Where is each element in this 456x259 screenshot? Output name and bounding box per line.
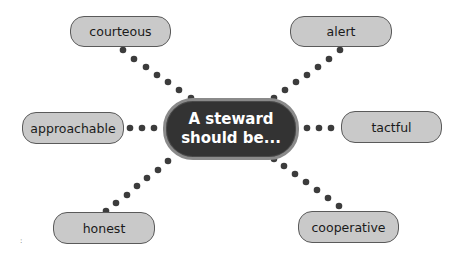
node-honest: honest	[53, 212, 155, 244]
node-alert: alert	[290, 16, 392, 47]
node-cooperative: cooperative	[298, 211, 399, 243]
node-label: courteous	[89, 24, 151, 39]
central-title-line1: A steward	[188, 110, 273, 129]
node-label: alert	[327, 24, 356, 39]
node-label: approachable	[30, 121, 115, 136]
node-tactful: tactful	[341, 111, 442, 143]
node-label: cooperative	[311, 220, 385, 235]
footer-mark: :	[20, 237, 22, 245]
node-label: tactful	[371, 120, 411, 135]
node-label: honest	[83, 221, 126, 236]
central-node: A steward should be...	[163, 98, 299, 160]
node-courteous: courteous	[70, 16, 171, 47]
node-approachable: approachable	[22, 112, 124, 144]
central-title-line2: should be...	[181, 129, 281, 148]
mind-map-diagram: courteous alert approachable tactful hon…	[0, 0, 456, 259]
